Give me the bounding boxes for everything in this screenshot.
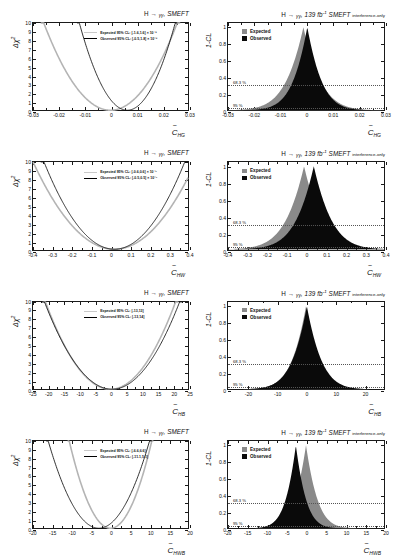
legend-label: Observed 95% CL: [-13,14] (100, 315, 144, 319)
y-axis-label: 1-CL (205, 33, 212, 48)
legend-item: Expected (242, 308, 271, 313)
legend-swatch-expected (242, 447, 247, 452)
y-tick-label: 4 (28, 213, 31, 219)
legend-label: Expected (250, 29, 270, 34)
legend-swatch-expected (84, 32, 97, 33)
y-tick-label: 0.2 (219, 510, 226, 516)
y-tick (33, 391, 36, 392)
y-tick-label: 0 (28, 527, 31, 533)
legend-swatch-expected (84, 450, 97, 451)
y-tick-label: 2 (28, 91, 31, 97)
legend-item: Observed (242, 454, 271, 459)
plot-row: H → γγ, SMEFTΔχ2CHWB-20-15-10-5051015200… (0, 418, 395, 557)
y-axis-label: 1-CL (205, 311, 212, 326)
legend-label: Observed 95% CL: [-0.5,1.8] × 10⁻² (100, 37, 157, 41)
legend-label: Expected 95% CL: [-1.6,1.6] × 10⁻² (100, 31, 157, 35)
y-tick (228, 530, 231, 531)
x-tick-label: -0.3 (48, 252, 57, 258)
plot-row: H → γγ, SMEFTΔχ2CHG-0.03-0.02-0.0100.010… (0, 0, 395, 139)
x-tick-label: -0.02 (53, 112, 65, 118)
y-tick-label: 5 (28, 343, 31, 349)
y-tick-label: 6 (28, 473, 31, 479)
legend-item: Expected 95% CL: [-1.6,1.6] × 10⁻² (84, 31, 157, 35)
y-axis-label: Δχ2 (10, 37, 19, 48)
y-tick-label: 7 (28, 465, 31, 471)
y-tick-right (381, 252, 384, 253)
x-tick-label: -10 (69, 530, 76, 536)
y-tick-label: 6 (28, 56, 31, 62)
plot-frame: -0.4-0.3-0.2-0.100.10.20.30.400.20.40.60… (227, 161, 385, 250)
plot-frame: -20-100102000.20.40.60.8168.3 %95 %Expec… (227, 301, 385, 390)
y-tick-label: 7 (28, 186, 31, 192)
y-axis-label: 1-CL (205, 172, 212, 187)
x-tick-label: -0.3 (243, 252, 252, 258)
cl-reference-label: 68.3 % (233, 498, 246, 503)
x-tick-label: 0.01 (133, 112, 143, 118)
x-tick (190, 107, 191, 110)
plot-title: H → γγ, 139 fb-1 SMEFT interference-only (281, 149, 385, 158)
x-tick-label: 10 (140, 391, 146, 397)
x-tick-label: -5 (94, 391, 99, 397)
y-tick-label: 1 (223, 442, 226, 448)
legend-label: Expected 95% CL: [-0.6,0.6] × 10⁻¹ (100, 170, 157, 174)
legend-item: Expected 95% CL: [-0.6,0.6] × 10⁻¹ (84, 170, 157, 174)
x-tick (386, 107, 387, 110)
legend-swatch-observed (84, 317, 97, 318)
x-tick-label: 0.3 (167, 252, 174, 258)
y-tick-right (185, 112, 188, 113)
cl-reference-label: 68.3 % (233, 359, 246, 364)
y-tick-label: 8 (28, 456, 31, 462)
y-tick-label: 1 (223, 303, 226, 309)
y-tick-label: 3 (28, 82, 31, 88)
x-axis-label: CHG (172, 128, 185, 138)
y-tick-label: 1 (223, 24, 226, 30)
legend-item: Expected (242, 168, 271, 173)
y-tick-label: 1 (223, 164, 226, 170)
cl-reference-label: 68.3 % (233, 80, 246, 85)
plot-frame: -20-15-10-505101520012345678910Expected … (32, 440, 189, 529)
plot-title: H → γγ, 139 fb-1 SMEFT interference-only (281, 289, 385, 298)
y-tick-label: 0.6 (219, 58, 226, 64)
x-tick-top (386, 441, 387, 444)
x-tick-label: 10 (148, 530, 154, 536)
legend: Expected 95% CL: [-6.6,6.6]Observed 95% … (84, 449, 148, 459)
legend-item: Observed 95% CL: [-11.1,5.1] (84, 455, 148, 459)
legend: ExpectedObserved (242, 447, 271, 459)
y-tick-label: 0 (223, 109, 226, 115)
y-tick-label: 3 (28, 500, 31, 506)
legend-label: Observed 95% CL: [-0.5,0.5] × 10⁻¹ (100, 176, 157, 180)
legend: Expected 95% CL: [-1.6,1.6] × 10⁻²Observ… (84, 31, 157, 41)
cl-reference-line (228, 225, 384, 226)
x-tick-label: 5 (325, 530, 328, 536)
legend-swatch-expected (84, 311, 97, 312)
y-tick-label: 0.6 (219, 476, 226, 482)
x-tick-label: -0.01 (275, 112, 287, 118)
legend-label: Observed (250, 175, 271, 180)
legend-item: Observed 95% CL: [-0.5,1.8] × 10⁻² (84, 37, 157, 41)
plot-row: H → γγ, SMEFTΔχ2CHB-25-20-15-10-50510152… (0, 279, 395, 418)
plot-frame: -0.4-0.3-0.2-0.100.10.20.30.401234567891… (32, 161, 189, 250)
panel-chi2-HW: H → γγ, SMEFTΔχ2CHW-0.4-0.3-0.2-0.100.10… (0, 139, 197, 278)
x-tick-label: -20 (245, 391, 252, 397)
y-tick-label: 9 (28, 29, 31, 35)
x-tick-label: -10 (274, 391, 281, 397)
x-tick-label: 15 (168, 530, 174, 536)
y-tick-label: 3 (28, 222, 31, 228)
legend-item: Observed (242, 175, 271, 180)
y-tick-label: 8 (28, 316, 31, 322)
legend-item: Expected 95% CL: [-13,13] (84, 309, 144, 313)
legend-label: Observed 95% CL: [-11.1,5.1] (100, 455, 148, 459)
y-tick-label: 2 (28, 231, 31, 237)
y-tick-label: 0.6 (219, 337, 226, 343)
x-tick-label: 20 (383, 530, 389, 536)
y-tick-label: 2 (28, 509, 31, 515)
x-tick-label: 0.1 (323, 252, 330, 258)
y-tick-label: 0 (28, 249, 31, 255)
x-axis-label: CHB (172, 407, 185, 417)
x-tick-label: -0.1 (283, 252, 292, 258)
cl-reference-line (228, 526, 384, 527)
x-axis-label: CHW (367, 268, 381, 278)
x-tick-label: 0.02 (159, 112, 169, 118)
cl-reference-line (228, 85, 384, 86)
legend-item: Observed 95% CL: [-0.5,0.5] × 10⁻¹ (84, 176, 157, 180)
